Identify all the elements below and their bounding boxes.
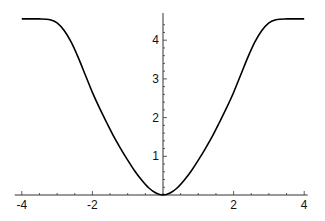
x-tick-label: -4 xyxy=(16,198,27,212)
y-tick-label: 2 xyxy=(152,111,159,125)
y-tick-label: 4 xyxy=(152,33,159,47)
y-axis: 1234 xyxy=(152,13,167,195)
x-tick-label: -2 xyxy=(87,198,98,212)
y-tick-label: 1 xyxy=(152,149,159,163)
x-tick-label: 2 xyxy=(230,198,237,212)
line-chart: -4-224 1234 xyxy=(0,0,325,221)
x-tick-label: 4 xyxy=(301,198,308,212)
y-tick-label: 3 xyxy=(152,72,159,86)
